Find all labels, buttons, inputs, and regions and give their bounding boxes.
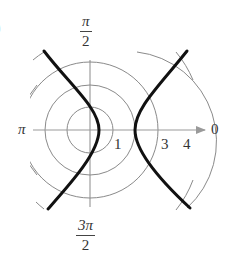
polar-plot	[0, 0, 230, 262]
polar-figure: ) π 2 π 0 3π 2 1 3 4	[0, 0, 230, 262]
radial-label-3: 3	[161, 137, 169, 152]
grid-circles	[20, 52, 217, 210]
label-pi-over-2: π 2	[80, 14, 92, 49]
radial-label-1: 1	[114, 137, 122, 152]
radial-label-4: 4	[183, 137, 191, 152]
label-zero: 0	[211, 122, 219, 137]
label-3pi-over-2: 3π 2	[76, 218, 95, 253]
grid-arc-r4-upper-left	[33, 52, 44, 60]
corner-label-fragment: )	[0, 16, 1, 39]
label-pi: π	[18, 122, 26, 137]
grid-arc-r4-lower-left	[36, 202, 44, 209]
